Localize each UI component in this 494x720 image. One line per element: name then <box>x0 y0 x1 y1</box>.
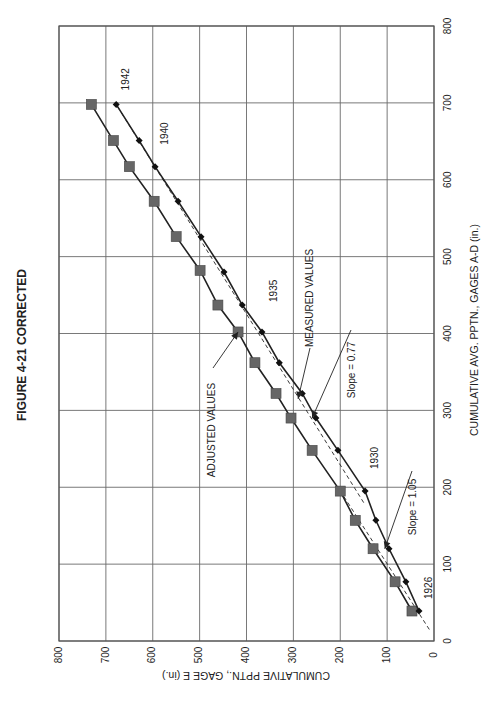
callout-label: MEASURED VALUES <box>304 249 315 348</box>
diamond-marker-icon <box>402 578 409 585</box>
y-tick-label: 200 <box>334 646 345 663</box>
square-marker-icon <box>271 388 281 398</box>
square-marker-icon <box>407 606 417 616</box>
square-marker-icon <box>250 358 260 368</box>
square-marker-icon <box>350 515 360 525</box>
y-tick-label: 800 <box>53 646 64 663</box>
square-marker-icon <box>368 544 378 554</box>
x-axis-title: CUMULATIVE AVG. PPTN., GAGES A-D (in.) <box>468 224 480 436</box>
y-tick-label: 300 <box>287 646 298 663</box>
year-label: 1940 <box>159 122 170 145</box>
x-tick-label: 300 <box>442 402 453 419</box>
x-tick-label: 800 <box>442 17 453 34</box>
year-label: 1942 <box>120 68 131 91</box>
y-axis-title: CUMULATIVE PPTN., GAGE E (in.) <box>162 670 330 682</box>
year-label: 1930 <box>369 446 380 469</box>
x-tick-label: 500 <box>442 248 453 265</box>
square-marker-icon <box>335 486 345 496</box>
square-marker-icon <box>124 162 134 172</box>
year-label: 1926 <box>423 576 434 599</box>
callout-label: Slope = 0.77 <box>346 341 357 398</box>
trend-lines <box>115 103 429 630</box>
y-tick-label: 100 <box>381 646 392 663</box>
y-tick-label: 700 <box>100 646 111 663</box>
y-tick-label: 500 <box>193 646 204 663</box>
square-marker-icon <box>286 413 296 423</box>
data-series <box>86 99 422 616</box>
x-tick-label: 0 <box>442 638 453 644</box>
double-mass-chart: 0100200300400500600700800010020030040050… <box>0 0 494 720</box>
diamond-marker-icon <box>372 517 379 524</box>
square-marker-icon <box>108 136 118 146</box>
square-marker-icon <box>195 265 205 275</box>
square-marker-icon <box>390 577 400 587</box>
measured-values-line <box>116 104 419 611</box>
axis-ticks: 0100200300400500600700800010020030040050… <box>53 17 453 663</box>
callout-arrow <box>298 348 310 399</box>
square-marker-icon <box>307 445 317 455</box>
square-marker-icon <box>213 300 223 310</box>
square-marker-icon <box>86 99 96 109</box>
year-label: 1935 <box>268 279 279 302</box>
y-tick-label: 0 <box>428 652 439 658</box>
callout-label: ADJUSTED VALUES <box>206 383 217 478</box>
figure-title: FIGURE 4-21 CORRECTED <box>15 269 29 421</box>
callout-label: Slope = 1.05 <box>407 478 418 535</box>
x-tick-label: 200 <box>442 478 453 495</box>
x-tick-label: 100 <box>442 555 453 572</box>
y-tick-label: 400 <box>240 646 251 663</box>
square-marker-icon <box>149 196 159 206</box>
y-tick-label: 600 <box>146 646 157 663</box>
x-tick-label: 600 <box>442 171 453 188</box>
x-tick-label: 400 <box>442 325 453 342</box>
x-tick-label: 700 <box>442 94 453 111</box>
square-marker-icon <box>171 232 181 242</box>
